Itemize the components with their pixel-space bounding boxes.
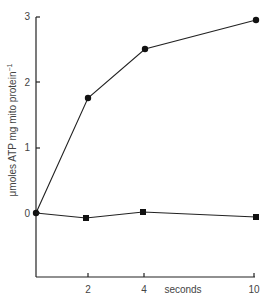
y-tick-2: 2 — [24, 77, 30, 88]
y-tick-0: 0 — [24, 208, 30, 219]
atp-time-chart: 3 2 1 0 2 4 10 seconds μmoles ATP mg mit… — [0, 0, 268, 301]
svg-text:μmoles ATP mg mito protein−1: μmoles ATP mg mito protein−1 — [6, 63, 18, 196]
x-tick-10: 10 — [248, 284, 260, 295]
series-circles — [33, 17, 259, 216]
y-tick-3: 3 — [24, 11, 30, 22]
series-squares — [36, 209, 259, 221]
y-axis-label-group: μmoles ATP mg mito protein−1 — [6, 63, 18, 196]
square-point — [253, 214, 259, 220]
y-axis-label-sup: −1 — [6, 63, 13, 71]
square-point — [83, 215, 89, 221]
y-axis-label: μmoles ATP mg mito protein — [7, 72, 18, 197]
circle-point — [253, 17, 259, 23]
circle-point — [142, 46, 148, 52]
x-tick-2: 2 — [85, 284, 91, 295]
circle-point — [85, 95, 91, 101]
x-tick-4: 4 — [141, 284, 147, 295]
y-axis — [36, 17, 40, 277]
square-point — [140, 209, 146, 215]
x-axis — [36, 273, 255, 277]
x-axis-label: seconds — [164, 284, 201, 295]
y-tick-1: 1 — [24, 142, 30, 153]
